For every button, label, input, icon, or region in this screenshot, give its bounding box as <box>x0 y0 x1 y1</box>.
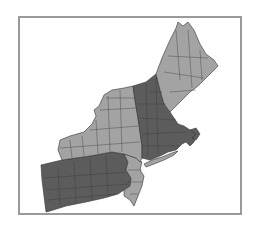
map-figure <box>0 0 258 228</box>
northeast-map <box>0 0 258 228</box>
